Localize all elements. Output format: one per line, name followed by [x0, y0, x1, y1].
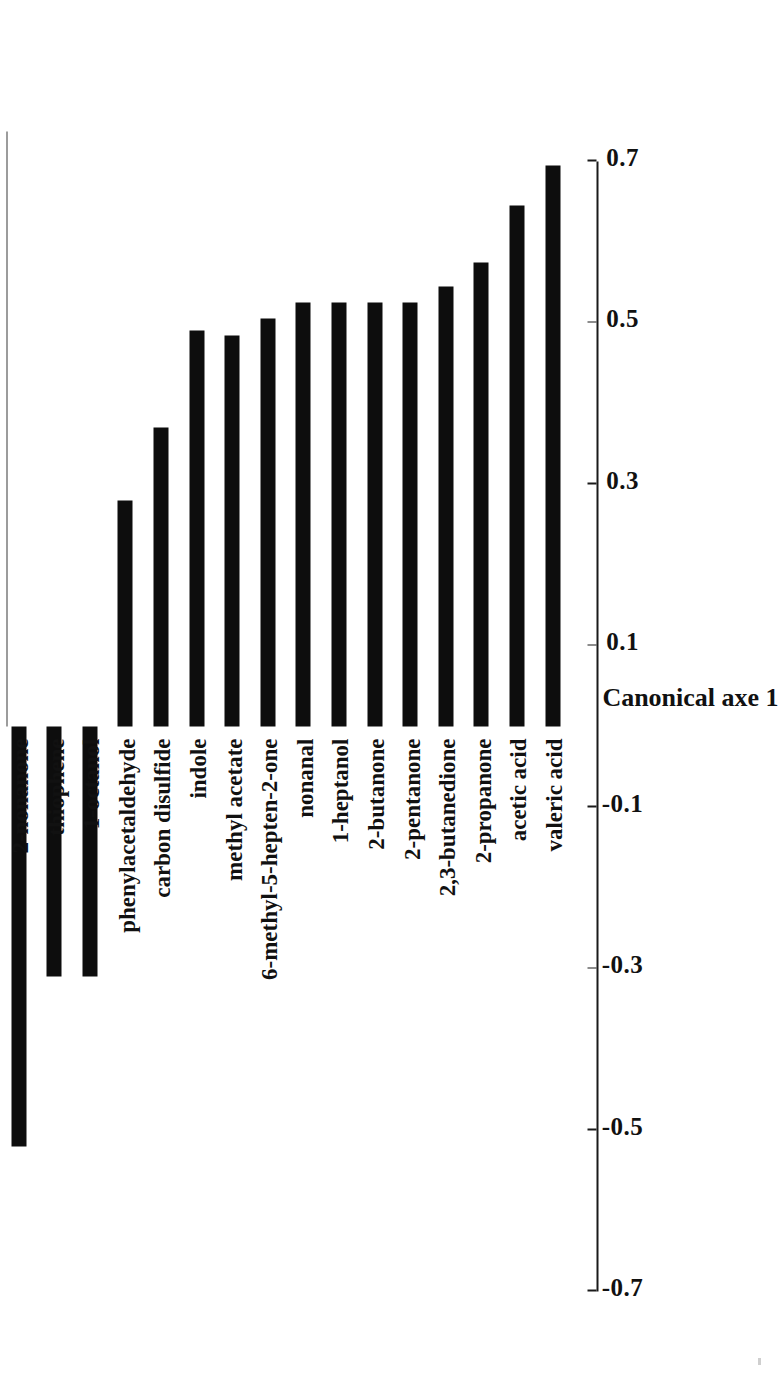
- bar: [545, 165, 560, 726]
- category-label: thiophene: [43, 738, 69, 835]
- category-label: 2-butanone: [363, 738, 389, 849]
- axis-tick: [587, 159, 596, 161]
- axis-tick: [587, 805, 596, 807]
- bar: [473, 262, 488, 726]
- bar: [402, 302, 417, 726]
- axis-tick: [587, 1128, 596, 1130]
- value-axis-line: [596, 161, 598, 1291]
- category-label: 2-propanone: [470, 738, 496, 863]
- category-label: 1-octanol: [78, 738, 104, 829]
- axis-tick: [587, 644, 596, 646]
- axis-tick-label: -0.7: [601, 1273, 643, 1301]
- axis-tick-label: 0.5: [606, 304, 639, 332]
- bar: [224, 335, 239, 726]
- bar: [260, 318, 275, 726]
- axis-tick-label: 0.3: [606, 466, 639, 494]
- axis-tick: [587, 321, 596, 323]
- axis-title: Canonical axe 1: [602, 682, 778, 712]
- category-label: carbon disulfide: [149, 738, 175, 897]
- category-label: methyl acetate: [221, 738, 247, 880]
- axis-tick-label: -0.3: [601, 950, 643, 978]
- bar: [153, 427, 168, 726]
- bar: [367, 302, 382, 726]
- category-label: 1-heptanol: [327, 738, 353, 843]
- axis-tick: [587, 1289, 596, 1291]
- axis-tick-label: -0.1: [601, 789, 643, 817]
- page-artifact: [758, 1358, 761, 1365]
- bar: [295, 302, 310, 726]
- category-label: nonanal: [292, 738, 318, 817]
- bar: [117, 500, 132, 726]
- axis-tick-label: 0.7: [606, 143, 639, 171]
- zero-baseline: [6, 131, 7, 726]
- bar: [331, 302, 346, 726]
- category-label: 2-pentanone: [399, 738, 425, 859]
- bar: [189, 331, 204, 727]
- bar: [509, 205, 524, 726]
- axis-tick: [587, 967, 596, 969]
- bar: [438, 286, 453, 726]
- axis-tick: [587, 482, 596, 484]
- category-label: valeric acid: [541, 738, 567, 851]
- category-label: indole: [185, 738, 211, 798]
- category-label: 2-nonanone: [7, 738, 33, 853]
- axis-tick-label: 0.1: [606, 627, 639, 655]
- category-label: acetic acid: [505, 738, 531, 841]
- category-label: 2,3-butanedione: [434, 738, 460, 896]
- axis-tick-label: -0.5: [601, 1112, 643, 1140]
- category-label: 6-methyl-5-hepten-2-one: [256, 738, 282, 979]
- category-label: phenylacetaldehyde: [114, 738, 140, 932]
